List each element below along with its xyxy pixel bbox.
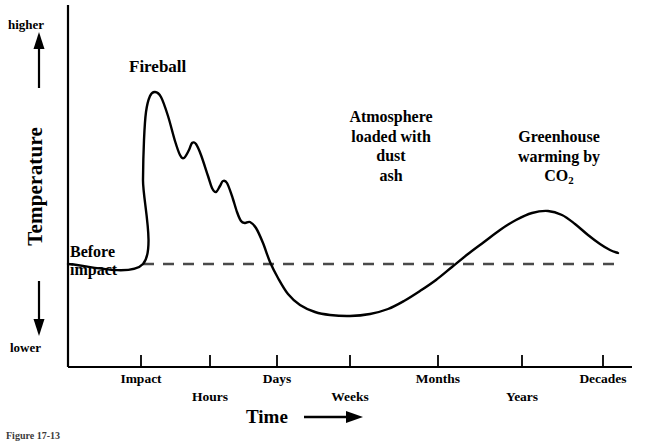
arrow-right-icon — [304, 411, 363, 423]
annotation-atmosphere-line-4: ash — [306, 166, 476, 186]
annotation-fireball: Fireball — [129, 58, 186, 76]
y-axis-low-label: lower — [10, 341, 41, 355]
annotation-atmosphere-line-2: loaded with — [306, 127, 476, 147]
annotation-greenhouse-line-1: Greenhouse — [484, 127, 634, 147]
annotation-greenhouse-line-2: warming by — [484, 147, 634, 167]
co2-formula-prefix: CO — [544, 167, 568, 184]
x-tick-label-years: Years — [506, 389, 538, 405]
x-axis-ticks — [141, 355, 603, 367]
x-axis-title: Time — [246, 407, 288, 428]
figure-caption: Figure 17-13 — [6, 430, 60, 441]
y-axis-high-label: higher — [8, 18, 44, 32]
annotation-before-impact-line2: impact — [70, 261, 117, 279]
x-tick-label-months: Months — [416, 371, 460, 387]
x-tick-label-days: Days — [263, 371, 292, 387]
figure-container: higher lower Temperature Time Fireball B… — [0, 0, 652, 442]
annotation-atmosphere-dust: Atmosphere loaded with dust ash — [306, 107, 476, 185]
co2-formula-subscript: 2 — [568, 174, 573, 186]
annotation-greenhouse-species: CO2 — [484, 166, 634, 187]
annotation-atmosphere-line-1: Atmosphere — [306, 107, 476, 127]
x-tick-label-impact: Impact — [120, 371, 161, 387]
x-tick-label-decades: Decades — [579, 371, 626, 387]
y-axis-title: Temperature — [24, 116, 47, 256]
annotation-before-impact: Before impact — [70, 243, 117, 279]
arrow-up-icon — [34, 32, 45, 88]
annotation-greenhouse-co2: Greenhouse warming by CO2 — [484, 127, 634, 187]
annotation-atmosphere-line-3: dust — [306, 146, 476, 166]
annotation-before-impact-line1: Before — [70, 243, 117, 261]
temperature-time-plot — [0, 0, 652, 442]
arrow-down-icon — [34, 281, 45, 336]
x-tick-label-weeks: Weeks — [331, 389, 369, 405]
x-tick-label-hours: Hours — [192, 389, 228, 405]
